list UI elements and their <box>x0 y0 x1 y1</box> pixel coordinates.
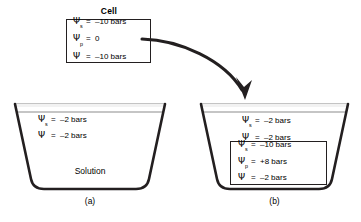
psi-subscript: s <box>249 122 252 128</box>
equals-sign: = <box>251 171 260 184</box>
psi-row: Ψs = –10 bars <box>73 15 150 32</box>
psi-symbol: Ψ <box>238 171 251 188</box>
psi-symbol: Ψp <box>73 32 86 49</box>
psi-value: –2 bars <box>264 114 291 127</box>
psi-subscript: p <box>245 163 248 169</box>
psi-row: Ψ = –10 bars <box>73 50 150 67</box>
psi-subscript: s <box>245 146 248 152</box>
psi-symbol: Ψs <box>238 138 251 155</box>
equals-sign: = <box>86 50 95 64</box>
psi-subscript: s <box>80 23 83 29</box>
psi-row: Ψs = –2 bars <box>38 113 148 129</box>
psi-row: Ψs = –10 bars <box>238 138 326 155</box>
psi-value: –2 bars <box>260 171 287 184</box>
psi-symbol: Ψs <box>38 113 51 129</box>
panel-b-caption: (b) <box>198 196 351 206</box>
panel-a-caption: (a) <box>12 196 168 206</box>
solution-label: Solution <box>12 166 168 176</box>
psi-symbol: Ψ <box>73 50 86 67</box>
psi-symbol: Ψs <box>73 15 86 32</box>
psi-row: Ψ = –2 bars <box>38 129 148 145</box>
psi-subscript: s <box>45 121 48 127</box>
equals-sign: = <box>255 114 264 127</box>
beaker-a-solution-values: Ψs = –2 bars Ψ = –2 bars <box>38 113 148 146</box>
psi-row: Ψ = –2 bars <box>238 171 326 188</box>
psi-symbol: Ψs <box>242 114 255 131</box>
psi-symbol: Ψ <box>38 129 51 145</box>
psi-row: Ψp = 0 <box>73 32 150 49</box>
psi-value: +8 bars <box>260 155 287 168</box>
psi-subscript: p <box>80 41 83 47</box>
equals-sign: = <box>51 114 60 127</box>
curved-transfer-arrow <box>140 28 260 106</box>
equals-sign: = <box>251 138 260 151</box>
cell-values-box: Ψs = –10 bars Ψp = 0 Ψ = –10 bars <box>66 19 151 63</box>
psi-value: –2 bars <box>60 114 87 127</box>
equals-sign: = <box>51 130 60 143</box>
psi-value: –10 bars <box>260 138 291 151</box>
equals-sign: = <box>86 32 95 46</box>
psi-value: –10 bars <box>95 15 126 29</box>
psi-value: –2 bars <box>60 130 87 143</box>
psi-value: –10 bars <box>95 50 126 64</box>
equals-sign: = <box>86 15 95 29</box>
equals-sign: = <box>251 155 260 168</box>
psi-row: Ψp = +8 bars <box>238 155 326 172</box>
water-potential-figure: Cell Ψs = –10 bars Ψp = 0 Ψ = –10 bars <box>0 0 361 222</box>
beaker-b-cell-values-box: Ψs = –10 bars Ψp = +8 bars Ψ = –2 bars <box>230 141 327 185</box>
psi-symbol: Ψp <box>238 155 251 172</box>
psi-value: 0 <box>95 32 99 46</box>
psi-row: Ψs = –2 bars <box>231 114 328 131</box>
